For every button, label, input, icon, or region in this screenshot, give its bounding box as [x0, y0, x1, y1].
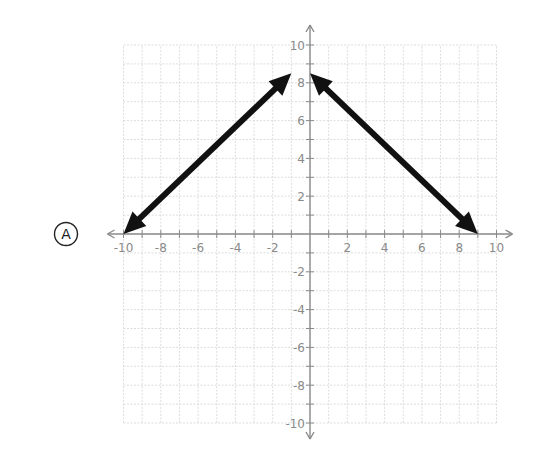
axes: [108, 25, 513, 439]
x-tick-label: 2: [343, 241, 351, 255]
series-right-segment: [310, 73, 478, 234]
x-tick-label: -2: [267, 241, 279, 255]
y-tick-label: 10: [290, 39, 305, 53]
x-tick-label: -6: [192, 241, 204, 255]
y-tick-label: 4: [297, 152, 305, 166]
x-tick-label: 10: [489, 241, 504, 255]
series-left-segment: [124, 73, 292, 234]
x-tick-label: -8: [155, 241, 167, 255]
coordinate-plane: -10-8-6-4-2246810-10-8-6-4-2246810: [0, 0, 544, 471]
y-tick-label: 6: [297, 114, 305, 128]
line-segment: [322, 84, 467, 223]
y-tick-label: -8: [293, 379, 305, 393]
y-tick-label: 2: [297, 190, 305, 204]
y-tick-label: -10: [285, 417, 305, 431]
line-segment: [135, 84, 280, 223]
y-tick-label: 8: [297, 76, 305, 90]
x-tick-label: -4: [229, 241, 241, 255]
x-tick-label: 6: [418, 241, 426, 255]
y-tick-label: -4: [293, 303, 305, 317]
y-tick-label: -2: [293, 265, 305, 279]
x-tick-label: 8: [455, 241, 463, 255]
y-tick-label: -6: [293, 341, 305, 355]
x-tick-label: 4: [381, 241, 389, 255]
x-tick-label: -10: [114, 241, 134, 255]
